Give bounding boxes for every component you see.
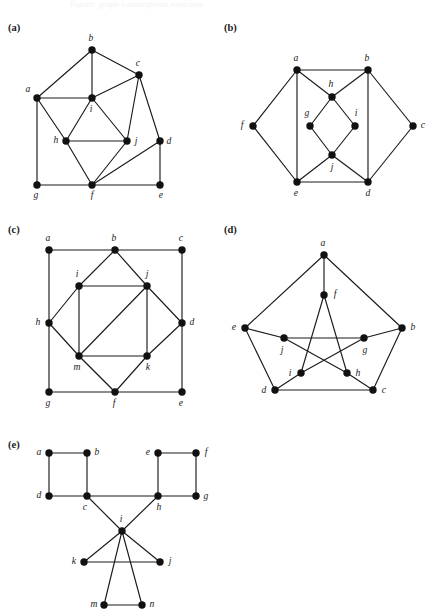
graph-edge-h-i [122, 496, 158, 531]
vertex-label-h: h [356, 367, 361, 378]
vertex-label-b: b [112, 232, 117, 243]
vertex-label-a: a [26, 83, 31, 94]
graph-edge-d-f [92, 141, 160, 185]
graph-vertex-j [123, 137, 130, 144]
graph-edge-c-i [87, 496, 122, 531]
graph-vertex-h [62, 137, 69, 144]
graph-edge-e-a [245, 255, 324, 328]
graph-vertex-a [45, 246, 52, 253]
vertex-group-c: abcdefghijkm [36, 232, 195, 408]
vertex-label-e: e [232, 321, 237, 332]
vertex-label-b: b [95, 446, 100, 457]
graph-edge-f-h [324, 295, 347, 373]
graph-vertex-i [351, 122, 358, 129]
graph-vertex-f [249, 122, 256, 129]
graph-vertex-a [320, 251, 327, 258]
graph-edge-h-i [332, 97, 355, 126]
graph-vertex-c [135, 71, 142, 78]
graph-edge-b-h [332, 70, 368, 97]
graph-vertex-n [138, 601, 145, 608]
vertex-label-a: a [46, 232, 51, 243]
vertex-label-j: j [329, 161, 334, 172]
graph-vertex-d [271, 386, 278, 393]
vertex-label-e: e [294, 187, 299, 198]
graph-vertex-e [241, 324, 248, 331]
graph-vertex-e [178, 388, 185, 395]
vertex-label-h: h [54, 134, 59, 145]
graph-edge-e-j [245, 328, 284, 338]
graph-vertex-j [328, 151, 335, 158]
vertex-label-i: i [289, 367, 292, 378]
graph-vertex-k [143, 352, 150, 359]
graph-edge-d-k [147, 323, 182, 356]
graph-vertex-h [328, 93, 335, 100]
graph-edge-b-g [364, 328, 402, 338]
vertex-label-n: n [150, 598, 155, 609]
graph-edge-i-f [301, 295, 324, 373]
graph-figure-e: abcdefghijkmn [0, 425, 230, 610]
vertex-label-i: i [120, 513, 123, 524]
vertex-label-f: f [91, 189, 95, 200]
graph-vertex-h [45, 319, 52, 326]
vertex-label-i: i [90, 103, 93, 114]
graph-vertex-d [156, 137, 163, 144]
graph-vertex-g [33, 181, 40, 188]
graph-vertex-f [320, 291, 327, 298]
vertex-label-j: j [279, 344, 284, 355]
graph-edge-e-j [297, 155, 332, 182]
graph-vertex-i [75, 282, 82, 289]
graph-figure-c: abcdefghijkm [0, 210, 216, 425]
graph-vertex-f [111, 388, 118, 395]
graph-vertex-b [398, 324, 405, 331]
vertex-label-d: d [366, 187, 371, 198]
vertex-label-g: g [34, 189, 39, 200]
graph-vertex-g [306, 122, 313, 129]
graph-edge-m-f [79, 356, 115, 392]
vertex-label-c: c [382, 384, 387, 395]
vertex-label-c: c [136, 57, 141, 68]
graph-vertex-e [156, 181, 163, 188]
graph-vertex-a [33, 94, 40, 101]
graph-vertex-a [293, 66, 300, 73]
graph-edge-a-h [297, 70, 332, 97]
graph-edge-a-b [37, 50, 92, 98]
graph-edge-a-h [37, 98, 66, 141]
graph-vertex-d [178, 319, 185, 326]
graph-edge-d-j [332, 155, 368, 182]
graph-vertex-c [369, 386, 376, 393]
vertex-label-a: a [321, 237, 326, 248]
vertex-label-g: g [363, 344, 368, 355]
graph-edge-i-j [332, 126, 355, 155]
graph-vertex-h [154, 492, 161, 499]
graph-vertex-b [83, 449, 90, 456]
vertex-label-f: f [113, 397, 117, 408]
vertex-label-f: f [334, 288, 338, 299]
graph-vertex-c [83, 492, 90, 499]
graph-edge-f-k [115, 356, 147, 392]
graph-vertex-j [280, 334, 287, 341]
graph-vertex-e [293, 178, 300, 185]
vertex-label-j: j [144, 268, 149, 279]
graph-edge-c-d [139, 75, 160, 141]
graph-edge-m-j [79, 286, 147, 356]
graph-vertex-c [178, 246, 185, 253]
graph-canvas-a: abcdefghij [0, 0, 216, 210]
vertex-label-c: c [179, 232, 184, 243]
graph-canvas-b: abcdefghij [216, 0, 432, 215]
graph-vertex-m [75, 352, 82, 359]
edge-group-c [49, 250, 182, 392]
graph-edge-i-n [122, 531, 142, 605]
vertex-label-d: d [262, 384, 267, 395]
graph-edge-g-i [301, 338, 364, 373]
graph-edge-g-j [310, 126, 332, 155]
graph-vertex-b [88, 46, 95, 53]
vertex-label-g: g [305, 107, 310, 118]
edge-group-a [37, 50, 160, 185]
vertex-label-b: b [365, 52, 370, 63]
vertex-label-b: b [89, 32, 94, 43]
vertex-group-e: abcdefghijkmn [37, 446, 209, 609]
graph-vertex-k [80, 558, 87, 565]
graph-vertex-g [360, 334, 367, 341]
vertex-label-i: i [355, 107, 358, 118]
graph-vertex-f [192, 449, 199, 456]
